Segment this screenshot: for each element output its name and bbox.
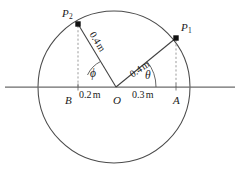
point-marker-p2 bbox=[75, 21, 80, 26]
label-angle-phi: ϕ bbox=[90, 68, 96, 80]
label-point-b: B bbox=[65, 95, 72, 106]
point-marker-p1 bbox=[173, 35, 178, 40]
label-offset-right-unit: m bbox=[146, 89, 154, 100]
label-angle-theta: θ bbox=[145, 70, 151, 82]
label-offset-left-value: 0.2 bbox=[79, 89, 92, 100]
label-offset-left: 0.2m bbox=[79, 90, 100, 100]
label-point-p2-letter: P bbox=[62, 7, 69, 19]
label-point-p1-subscript: 1 bbox=[188, 26, 192, 35]
label-point-p2: P2 bbox=[62, 8, 72, 19]
label-point-p1: P1 bbox=[181, 22, 191, 33]
geometry-diagram bbox=[0, 0, 239, 174]
label-point-o: O bbox=[113, 95, 121, 106]
label-offset-left-unit: m bbox=[93, 89, 101, 100]
label-point-a: A bbox=[173, 95, 180, 106]
label-offset-right: 0.3m bbox=[132, 90, 153, 100]
label-offset-right-value: 0.3 bbox=[132, 89, 145, 100]
figure-container: P2 P1 O B A 0.4m 0.4m 0.2m 0.3m ϕ θ bbox=[0, 0, 239, 174]
label-point-p1-letter: P bbox=[181, 21, 188, 33]
label-point-p2-subscript: 2 bbox=[69, 12, 73, 21]
